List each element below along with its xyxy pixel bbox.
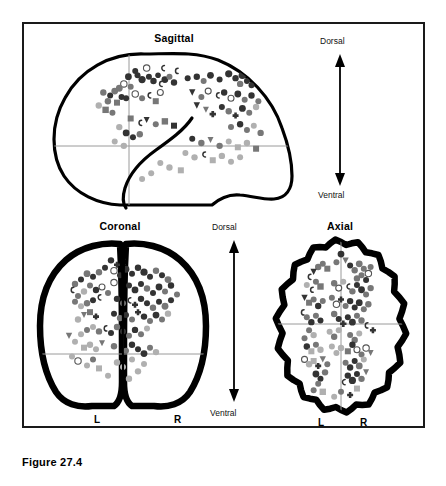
axial-left-label: L <box>318 417 324 428</box>
panel-coronal: Coronal <box>30 220 220 420</box>
panel-title-coronal: Coronal <box>30 220 210 232</box>
panel-sagittal: Sagittal <box>24 24 324 214</box>
sagittal-direction-arrow <box>324 52 356 188</box>
coronal-direction-arrow <box>220 238 248 404</box>
panel-title-axial: Axial <box>260 220 420 232</box>
coronal-brain-plot <box>30 236 216 412</box>
axial-right-label: R <box>360 417 367 428</box>
figure-caption: Figure 27.4 <box>22 456 82 468</box>
coronal-left-label: L <box>94 414 100 425</box>
panel-title-sagittal: Sagittal <box>24 32 324 44</box>
axial-brain-plot <box>260 236 422 418</box>
coronal-dorsal-label: Dorsal <box>212 222 237 232</box>
panel-axial: Axial <box>260 220 425 425</box>
coronal-right-label: R <box>174 414 181 425</box>
figure-frame: Sagittal Dorsal Ventral Coronal L R Dors… <box>22 22 425 428</box>
sagittal-ventral-label: Ventral <box>318 190 344 200</box>
sagittal-dorsal-label: Dorsal <box>320 36 345 46</box>
sagittal-brain-plot <box>24 48 324 213</box>
coronal-ventral-label: Ventral <box>210 408 236 418</box>
